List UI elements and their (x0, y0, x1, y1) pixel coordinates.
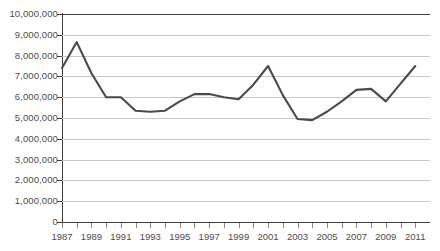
x-tick-mark (165, 223, 166, 228)
y-tick-label: 10,000,000 (0, 9, 58, 19)
x-tick-mark (268, 223, 269, 228)
y-tick-mark (57, 180, 62, 181)
x-tick-label: 2007 (346, 231, 367, 242)
gridline (62, 222, 430, 223)
y-axis: 10,000,0009,000,0008,000,0007,000,0006,0… (0, 0, 58, 232)
x-tick-mark (106, 223, 107, 228)
y-tick-mark (57, 118, 62, 119)
x-tick-mark (312, 223, 313, 228)
x-tick-label: 1999 (228, 231, 249, 242)
x-tick-mark (415, 223, 416, 228)
y-tick-label: 3,000,000 (0, 155, 58, 165)
y-tick-label: 5,000,000 (0, 113, 58, 123)
y-tick-label: 1,000,000 (0, 196, 58, 206)
x-tick-label: 2005 (316, 231, 337, 242)
x-tick-mark (253, 223, 254, 228)
y-tick-label: 7,000,000 (0, 71, 58, 81)
x-tick-mark (371, 223, 372, 228)
y-tick-mark (57, 14, 62, 15)
y-tick-label: 8,000,000 (0, 51, 58, 61)
x-tick-label: 1993 (140, 231, 161, 242)
y-tick-mark (57, 160, 62, 161)
x-tick-mark (91, 223, 92, 228)
x-tick-label: 2001 (258, 231, 279, 242)
x-tick-label: 1989 (81, 231, 102, 242)
y-tick-mark (57, 76, 62, 77)
x-tick-mark (180, 223, 181, 228)
y-tick-label: 6,000,000 (0, 92, 58, 102)
x-tick-label: 1997 (199, 231, 220, 242)
y-tick-mark (57, 35, 62, 36)
y-tick-label: 2,000,000 (0, 175, 58, 185)
y-tick-mark (57, 56, 62, 57)
y-tick-label: 4,000,000 (0, 134, 58, 144)
x-tick-label: 1987 (51, 231, 72, 242)
y-tick-label: 0 (0, 217, 58, 227)
y-tick-mark (57, 139, 62, 140)
x-tick-mark (194, 223, 195, 228)
x-tick-mark (356, 223, 357, 228)
x-tick-label: 2003 (287, 231, 308, 242)
x-tick-label: 2011 (405, 231, 425, 242)
x-tick-mark (386, 223, 387, 228)
x-tick-mark (327, 223, 328, 228)
x-tick-mark (401, 223, 402, 228)
data-series-layer (62, 14, 430, 222)
x-tick-mark (136, 223, 137, 228)
x-tick-label: 2009 (375, 231, 396, 242)
x-tick-mark (121, 223, 122, 228)
x-tick-mark (342, 223, 343, 228)
x-tick-mark (62, 223, 63, 228)
x-tick-mark (77, 223, 78, 228)
x-tick-mark (239, 223, 240, 228)
x-tick-mark (209, 223, 210, 228)
x-tick-mark (224, 223, 225, 228)
x-tick-label: 1991 (110, 231, 131, 242)
line-chart: 10,000,0009,000,0008,000,0007,000,0006,0… (0, 0, 440, 251)
y-tick-label: 9,000,000 (0, 30, 58, 40)
y-tick-mark (57, 201, 62, 202)
y-tick-mark (57, 97, 62, 98)
x-tick-mark (283, 223, 284, 228)
series-line (62, 42, 415, 120)
x-tick-mark (298, 223, 299, 228)
x-tick-mark (150, 223, 151, 228)
x-tick-label: 1995 (169, 231, 190, 242)
